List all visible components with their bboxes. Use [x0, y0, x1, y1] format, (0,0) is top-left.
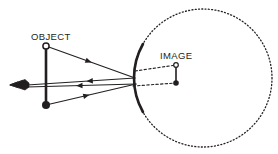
- virtual-ray-group: [133, 65, 176, 86]
- incident-ray-from-object-bottom: [46, 84, 136, 105]
- ray-arrowhead: [76, 83, 82, 88]
- image-top-open-circle: [174, 63, 179, 68]
- object-top-open-circle: [43, 43, 49, 49]
- virtual-extension-to-image-bottom: [133, 83, 176, 86]
- image-bottom-filled-circle: [173, 80, 179, 86]
- mirror-sphere-circle: [134, 9, 272, 147]
- ray-arrowhead: [83, 94, 90, 99]
- observer-eye-icon: [10, 80, 29, 91]
- real-ray-group: [27, 46, 136, 105]
- ray-diagram-canvas: OBJECT IMAGE: [0, 0, 278, 154]
- object-arrow: [42, 43, 50, 109]
- optics-diagram-svg: OBJECT IMAGE: [0, 0, 278, 154]
- image-arrow: [173, 63, 179, 86]
- object-label: OBJECT: [31, 31, 71, 42]
- ray-arrowhead: [85, 58, 92, 63]
- image-label: IMAGE: [160, 50, 192, 61]
- object-bottom-filled-circle: [42, 101, 50, 109]
- ray-arrowhead: [86, 78, 93, 83]
- virtual-extension-to-image-top: [135, 65, 176, 71]
